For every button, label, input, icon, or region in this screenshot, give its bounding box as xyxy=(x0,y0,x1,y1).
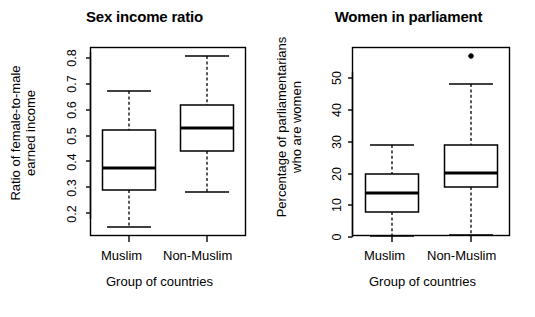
x-tick-label-left-non-muslim: Non-Muslim xyxy=(163,248,232,263)
plot-svg-right xyxy=(268,0,535,317)
x-axis-title-left: Group of countries xyxy=(106,274,213,289)
x-tick-label-right-muslim: Muslim xyxy=(364,248,405,263)
panel-sex-income-ratio: Sex income ratio Ratio of female-to-male… xyxy=(0,0,267,317)
figure: Sex income ratio Ratio of female-to-male… xyxy=(0,0,535,317)
panel-women-in-parliament: Women in parliament Percentage of parlia… xyxy=(268,0,535,317)
boxplot-left-non-muslim xyxy=(181,56,234,192)
plot-svg-left xyxy=(0,0,267,317)
boxplot-left-muslim xyxy=(103,91,156,227)
y-axis-ticks-left xyxy=(86,52,91,219)
x-axis-ticks-left xyxy=(129,236,207,243)
y-axis-ticks-right xyxy=(348,72,353,237)
x-tick-label-left-muslim: Muslim xyxy=(101,248,142,263)
boxplot-right-muslim xyxy=(366,145,419,236)
x-tick-label-right-non-muslim: Non-Muslim xyxy=(427,248,496,263)
x-axis-title-right: Group of countries xyxy=(369,274,476,289)
boxplot-right-non-muslim xyxy=(445,54,498,235)
outlier-point xyxy=(469,54,474,59)
